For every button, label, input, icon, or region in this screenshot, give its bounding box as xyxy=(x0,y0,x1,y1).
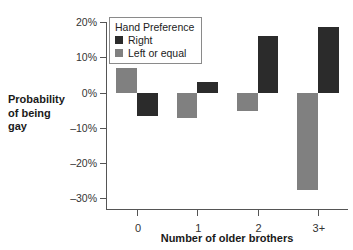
x-axis-tick: 2 xyxy=(258,209,259,216)
chart-figure: Probability of being gay 20%10%0%–10%–20… xyxy=(0,0,353,250)
y-axis-tick: –20% xyxy=(100,163,107,164)
x-axis-title: Number of older brothers xyxy=(106,232,348,244)
y-axis-tick-label: –20% xyxy=(70,157,97,169)
x-axis-tick: 3+ xyxy=(318,209,319,216)
bar xyxy=(258,36,279,93)
x-axis-tick: 1 xyxy=(197,209,198,216)
bar xyxy=(177,93,198,118)
y-axis-tick: 20% xyxy=(100,22,107,23)
legend: Hand Preference Right Left or equal xyxy=(109,17,202,64)
bar xyxy=(197,82,218,93)
y-axis-tick-label: 0% xyxy=(82,87,97,99)
legend-swatch-left-or-equal xyxy=(115,49,123,57)
y-axis-tick: 0% xyxy=(100,93,107,94)
y-axis-title-line-2: of being xyxy=(8,107,88,121)
legend-label-right: Right xyxy=(128,34,153,46)
y-axis-tick: 10% xyxy=(100,57,107,58)
y-axis-tick-label: 10% xyxy=(76,51,97,63)
y-axis-tick-label: –10% xyxy=(70,122,97,134)
legend-item-right: Right xyxy=(115,34,194,46)
y-axis-tick-label: 20% xyxy=(76,16,97,28)
bar xyxy=(297,93,318,190)
legend-label-left-or-equal: Left or equal xyxy=(128,47,186,59)
bar xyxy=(318,27,339,92)
bar xyxy=(116,68,137,93)
y-axis-tick: –30% xyxy=(100,198,107,199)
y-axis-title-line-1: Probability xyxy=(8,93,88,107)
legend-swatch-right xyxy=(115,36,123,44)
bar xyxy=(137,93,158,117)
bar xyxy=(237,93,258,111)
legend-item-left-or-equal: Left or equal xyxy=(115,47,194,59)
legend-title: Hand Preference xyxy=(115,21,194,33)
x-axis-tick: 0 xyxy=(137,209,138,216)
y-axis-tick: –10% xyxy=(100,128,107,129)
y-axis-tick-label: –30% xyxy=(70,192,97,204)
